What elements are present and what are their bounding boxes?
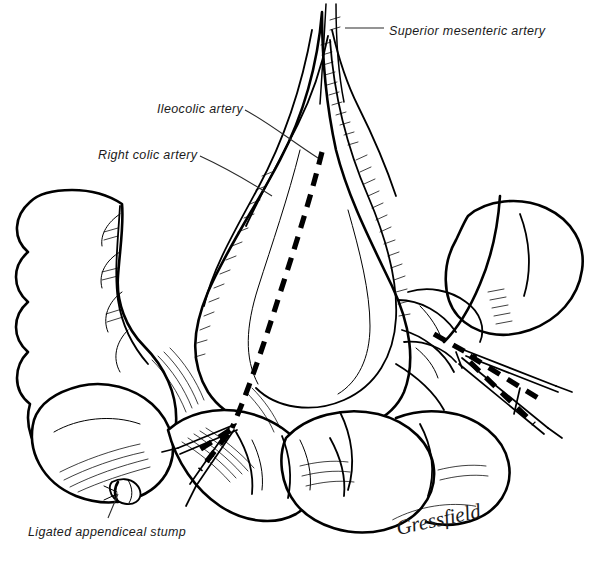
illustration-canvas: Superior mesenteric artery Ileocolic art… <box>0 0 597 562</box>
surgical-illustration-figure: Superior mesenteric artery Ileocolic art… <box>0 0 597 562</box>
label-text-ileocolic: Ileocolic artery <box>157 102 244 116</box>
label-text-sma: Superior mesenteric artery <box>389 24 546 38</box>
label-text-appendiceal-stump: Ligated appendiceal stump <box>28 525 186 539</box>
label-text-right-colic: Right colic artery <box>98 148 198 162</box>
